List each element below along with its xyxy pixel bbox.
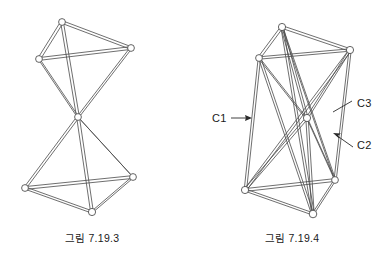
lower-ring-members [245, 179, 336, 216]
member-label-c3: C3 [357, 97, 371, 109]
node-upper-left [256, 55, 263, 62]
node-top [59, 19, 66, 26]
node-top [278, 23, 285, 30]
node-center [303, 114, 310, 121]
technical-drawing-canvas [0, 0, 385, 262]
c1-arrowhead [245, 115, 252, 121]
node-lower-right [130, 174, 137, 181]
figure-caption-right: 그림 7.19.4 [232, 230, 352, 245]
upper-tetrahedron-members [38, 21, 132, 119]
node-lower-right [332, 177, 339, 184]
lower-spoke-members [244, 117, 336, 214]
node-lower-left [241, 186, 248, 193]
c3-leader-line [333, 101, 352, 112]
member-c1-a [244, 58, 258, 190]
node-upper-right [346, 46, 353, 53]
node-center [75, 114, 82, 121]
upper-ring-members [258, 26, 350, 60]
member-label-c1: C1 [212, 112, 226, 124]
node-lower-left [22, 185, 29, 192]
node-upper-right [128, 45, 135, 52]
member-label-c2: C2 [357, 139, 371, 151]
figure-7-19-4-drawing [231, 23, 354, 217]
figure-caption-left: 그림 7.19.3 [32, 230, 152, 245]
node-bottom [309, 210, 317, 218]
node-bottom [88, 208, 95, 215]
upper-spoke-members [259, 27, 351, 119]
figure-board: C1 C2 C3 그림 7.19.3 그림 7.19.4 [0, 0, 385, 262]
node-upper-left [36, 56, 43, 63]
lower-tetrahedron-members [24, 116, 134, 213]
figure-7-19-3-drawing [22, 19, 137, 216]
